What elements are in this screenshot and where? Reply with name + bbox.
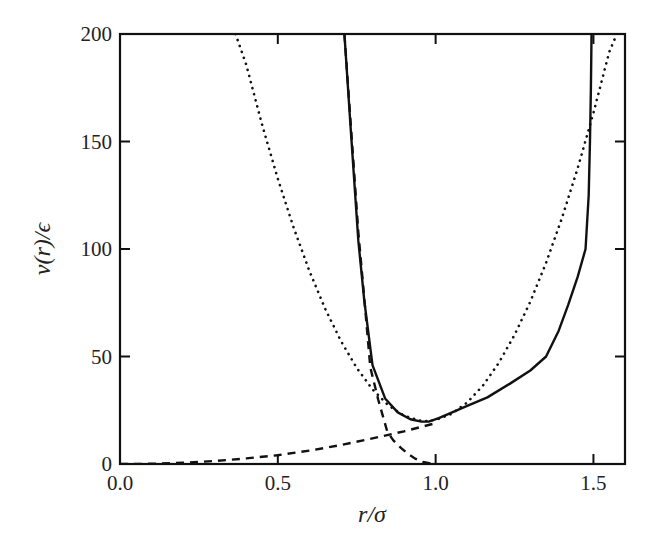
y-axis-label: v(r)/ϵ [29, 222, 55, 276]
x-tick-label: 0.5 [265, 471, 291, 495]
plot-frame [120, 34, 625, 464]
y-tick-label: 200 [81, 22, 113, 46]
series-layer [120, 34, 617, 464]
x-axis-label: r/σ [358, 501, 387, 527]
y-tick-label: 50 [91, 345, 112, 369]
series-harmonic-approximation [236, 34, 617, 421]
series-total-potential [344, 34, 591, 422]
y-tick-label: 0 [102, 452, 113, 476]
x-tick-label: 1.0 [423, 471, 449, 495]
y-tick-label: 100 [81, 237, 113, 261]
series-repulsive-part [344, 34, 432, 464]
y-tick-label: 150 [81, 130, 113, 154]
tick-layer: 0.00.51.01.5050100150200 [81, 22, 626, 495]
x-tick-label: 1.5 [580, 471, 606, 495]
potential-chart: 0.00.51.01.5050100150200 r/σ v(r)/ϵ [0, 0, 654, 558]
